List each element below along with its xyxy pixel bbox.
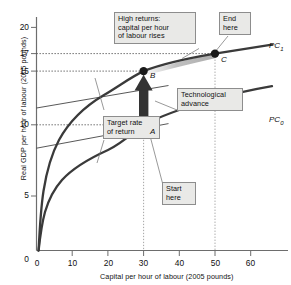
leader-start-here: [149, 132, 163, 185]
economic-growth-chart: 20 17 15 10 5 0 0 10 20 30 40 50 60 Real…: [0, 0, 291, 285]
axis-lines: [37, 17, 289, 251]
leader-tech-advance: [155, 101, 177, 110]
x-tick-20: 20: [102, 258, 115, 268]
x-axis-title: Capital per hour of labour (2005 pounds): [100, 272, 233, 281]
callout-technological-advance: Technological advance: [177, 88, 243, 111]
x-tick-50: 50: [209, 258, 222, 268]
pc0-label-text: PC: [269, 115, 280, 124]
callout-high-returns: High returns: capital per hour of labour…: [114, 12, 196, 44]
pc0-label: PC0: [269, 115, 283, 126]
x-tick-30: 30: [137, 258, 150, 268]
x-tick-60: 60: [244, 258, 257, 268]
y-axis-title: Real GDP per hour of labour (2005 pounds…: [19, 24, 28, 194]
pc1-label-text: PC: [269, 41, 280, 50]
callout-start-here: Start here: [162, 182, 196, 205]
point-c-label: C: [221, 55, 227, 64]
x-tick-40: 40: [173, 258, 186, 268]
pc1-label: PC1: [269, 41, 283, 52]
point-b-label: B: [150, 71, 155, 80]
y-axis-ticks: [31, 27, 37, 196]
y-tick-0: 0: [8, 254, 29, 264]
reference-lines: [37, 54, 216, 251]
callout-end-here: End here: [219, 12, 251, 35]
pc1-label-sub: 1: [280, 46, 283, 52]
leader-target-rate-upper: [95, 78, 104, 110]
leader-end-here: [215, 36, 228, 52]
x-tick-10: 10: [66, 258, 79, 268]
x-tick-0: 0: [31, 258, 43, 268]
pc0-label-sub: 0: [280, 120, 283, 126]
point-b-marker: [139, 67, 147, 75]
point-c-marker: [211, 49, 219, 57]
x-axis-ticks: [72, 251, 251, 257]
point-a-label: A: [150, 127, 155, 136]
